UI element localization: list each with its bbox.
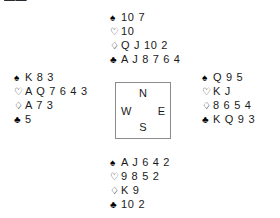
club-icon: ♣ [110,198,121,212]
hand-south-clubs-row: ♣ 10 2 [110,197,170,211]
hand-west-spades-row: ♠ K 8 3 [14,70,88,84]
spade-icon: ♠ [202,71,213,85]
bridge-deal-diagram: ▬▬ ♠ 10 7 ♡ 10 ♢ Q J 10 2 ♣ A J 8 7 6 4 … [0,0,280,218]
diamond-icon: ♢ [110,184,121,198]
hand-west-diamonds-row: ♢ A 7 3 [14,98,88,112]
compass-west-label: W [121,105,131,116]
hand-east-clubs-row: ♣ K Q 9 3 [202,112,255,126]
hand-south-hearts: 9 8 5 2 [121,169,160,183]
hand-south-diamonds: K 9 [121,183,140,197]
hand-west-hearts-row: ♡ A Q 7 6 4 3 [14,84,88,98]
hand-north-clubs-row: ♣ A J 8 7 6 4 [110,52,181,66]
hand-west-spades: K 8 3 [25,70,54,84]
hand-north: ♠ 10 7 ♡ 10 ♢ Q J 10 2 ♣ A J 8 7 6 4 [110,10,181,66]
hand-west-clubs: 5 [25,112,32,126]
hand-south-clubs: 10 2 [121,197,145,211]
hand-north-diamonds: Q J 10 2 [121,38,168,52]
club-icon: ♣ [202,113,213,127]
hand-west-diamonds: A 7 3 [25,98,54,112]
hand-east-spades-row: ♠ Q 9 5 [202,70,255,84]
compass-south-label: S [139,122,146,133]
spade-icon: ♠ [110,11,121,25]
diamond-icon: ♢ [110,39,121,53]
heart-icon: ♡ [110,170,121,184]
compass-north-label: N [139,88,147,99]
hand-south-spades-row: ♠ A J 6 4 2 [110,155,170,169]
compass-east-label: E [158,105,165,116]
hand-south: ♠ A J 6 4 2 ♡ 9 8 5 2 ♢ K 9 ♣ 10 2 [110,155,170,211]
hand-east-spades: Q 9 5 [213,70,243,84]
hand-east-diamonds: 8 6 5 4 [213,98,252,112]
hand-south-hearts-row: ♡ 9 8 5 2 [110,169,170,183]
hand-north-spades: 10 7 [121,10,145,24]
hand-north-diamonds-row: ♢ Q J 10 2 [110,38,181,52]
diamond-icon: ♢ [202,99,213,113]
hand-south-diamonds-row: ♢ K 9 [110,183,170,197]
spade-icon: ♠ [110,156,121,170]
spade-icon: ♠ [14,71,25,85]
hand-south-spades: A J 6 4 2 [121,155,170,169]
heart-icon: ♡ [14,85,25,99]
hand-west-hearts: A Q 7 6 4 3 [25,84,88,98]
hand-east-hearts: K J [213,84,231,98]
clipped-header-artifact: ▬▬ [4,0,27,1]
diamond-icon: ♢ [14,99,25,113]
hand-east: ♠ Q 9 5 ♡ K J ♢ 8 6 5 4 ♣ K Q 9 3 [202,70,255,126]
hand-west-clubs-row: ♣ 5 [14,112,88,126]
heart-icon: ♡ [110,25,121,39]
hand-east-diamonds-row: ♢ 8 6 5 4 [202,98,255,112]
hand-north-hearts: 10 [121,24,135,38]
heart-icon: ♡ [202,85,213,99]
compass-box: N W E S [115,82,171,139]
hand-east-clubs: K Q 9 3 [213,112,255,126]
hand-north-hearts-row: ♡ 10 [110,24,181,38]
hand-west: ♠ K 8 3 ♡ A Q 7 6 4 3 ♢ A 7 3 ♣ 5 [14,70,88,126]
hand-north-clubs: A J 8 7 6 4 [121,52,181,66]
hand-north-spades-row: ♠ 10 7 [110,10,181,24]
club-icon: ♣ [110,53,121,67]
club-icon: ♣ [14,113,25,127]
hand-east-hearts-row: ♡ K J [202,84,255,98]
